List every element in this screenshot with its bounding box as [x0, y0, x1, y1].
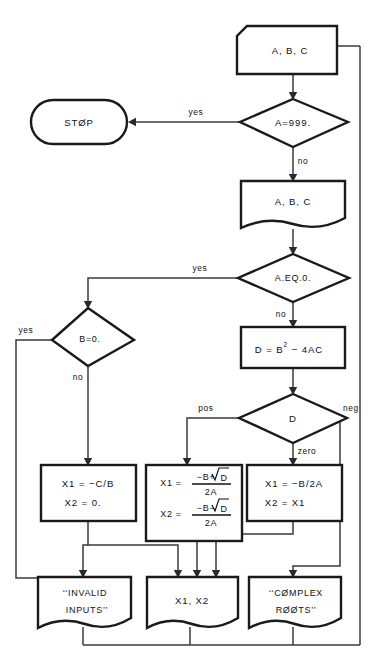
- node-read-input-label: A, B, C: [272, 45, 309, 56]
- node-equal-roots-line1: X1 = −B/2A: [265, 478, 323, 489]
- branch-label-sentinel-yes: yes: [189, 107, 204, 117]
- node-check-disc[interactable]: D: [239, 394, 347, 443]
- node-equal-roots-line2: X2 = X1: [265, 497, 306, 508]
- node-print-input-label: A, B, C: [275, 196, 312, 207]
- node-check-a-zero[interactable]: A.EQ.0.: [238, 254, 349, 302]
- flowchart-canvas: yes no yes no yes no: [0, 0, 378, 660]
- branch-label-d-zero: zero: [298, 446, 317, 456]
- node-compute-disc-label: D = B2 − 4AC: [255, 341, 323, 355]
- node-real-roots-x2-num-radicand: D: [220, 504, 227, 514]
- node-print-invalid-line2: INPUTS’’: [66, 605, 108, 615]
- node-stop[interactable]: STØP: [31, 100, 127, 144]
- arrowhead-stop: [128, 118, 136, 126]
- node-equal-roots[interactable]: X1 = −B/2A X2 = X1: [247, 465, 342, 521]
- node-stop-label: STØP: [64, 117, 94, 128]
- node-compute-disc[interactable]: D = B2 − 4AC: [241, 327, 345, 368]
- node-linear-root[interactable]: X1 = −C/B X2 = 0.: [41, 465, 136, 521]
- node-check-b-zero-label: B=0.: [79, 334, 101, 344]
- branch-label-bzero-yes: yes: [19, 325, 34, 335]
- node-print-complex-line1: ‘‘CØMPLEX: [269, 588, 323, 598]
- node-linear-root-line2: X2 = 0.: [65, 497, 102, 508]
- connector-aeq-yes: [88, 278, 240, 305]
- node-print-complex[interactable]: ‘‘CØMPLEX RØØTS’’: [249, 577, 341, 628]
- node-check-sentinel-label: A=999.: [275, 117, 311, 128]
- node-real-roots-x2-den: 2A: [205, 518, 217, 528]
- node-print-roots-label: X1, X2: [175, 595, 209, 606]
- node-print-roots[interactable]: X1, X2: [147, 577, 238, 628]
- node-print-input[interactable]: A, B, C: [241, 181, 345, 228]
- node-print-invalid-line1: ‘‘INVALID: [63, 588, 107, 598]
- branch-label-d-pos: pos: [198, 403, 213, 413]
- connector-d-pos: [187, 418, 240, 462]
- branch-label-sentinel-no: no: [298, 156, 309, 166]
- node-check-disc-label: D: [289, 413, 297, 424]
- branch-label-bzero-no: no: [73, 372, 84, 382]
- branch-label-aeq-no: no: [276, 309, 287, 319]
- node-real-roots-x1-label: X1 =: [160, 478, 182, 488]
- node-print-invalid[interactable]: ‘‘INVALID INPUTS’’: [38, 577, 131, 628]
- node-check-b-zero[interactable]: B=0.: [52, 308, 134, 366]
- branch-label-d-neg: neg: [343, 403, 359, 413]
- node-check-sentinel[interactable]: A=999.: [240, 99, 348, 147]
- node-check-a-zero-label: A.EQ.0.: [275, 273, 311, 283]
- node-read-input[interactable]: A, B, C: [237, 26, 337, 74]
- connector-linear-to-invalid: [83, 545, 88, 574]
- node-real-roots[interactable]: X1 = −B+ D 2A X2 = −B− D 2A: [146, 465, 242, 541]
- flowchart-svg: yes no yes no yes no: [0, 0, 378, 660]
- node-real-roots-x1-num-radicand: D: [220, 473, 227, 483]
- node-real-roots-x1-den: 2A: [205, 487, 217, 497]
- node-linear-root-line1: X1 = −C/B: [62, 478, 114, 489]
- branch-label-aeq-yes: yes: [193, 263, 208, 273]
- node-real-roots-x2-label: X2 =: [160, 509, 182, 519]
- node-print-complex-line2: RØØTS’’: [276, 605, 317, 615]
